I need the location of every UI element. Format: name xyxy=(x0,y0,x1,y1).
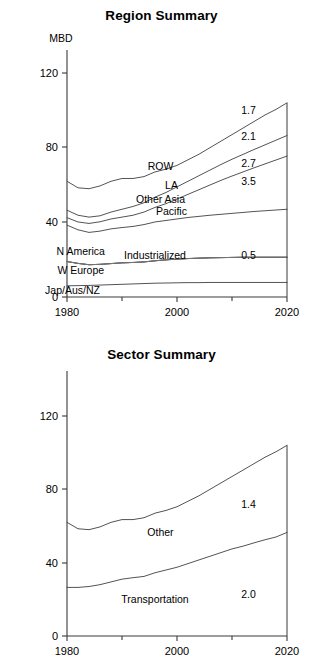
band-label-transportation: Transportation xyxy=(121,593,188,605)
figure-sector-summary: Sector Summary 04080120198020002020Other… xyxy=(0,340,323,667)
band-label-other: Other xyxy=(147,526,174,538)
y-tick-label: 40 xyxy=(46,557,58,569)
series-line-jap-aus-nz xyxy=(67,282,287,285)
x-tick-label: 1980 xyxy=(55,306,79,318)
band-label-la: LA xyxy=(165,179,178,191)
y-tick-label: 120 xyxy=(40,410,58,422)
growth-annotation: 3.5 xyxy=(241,175,256,187)
series-line-other xyxy=(67,445,287,529)
band-label-row: ROW xyxy=(148,160,174,172)
band-label-other-asia: Other Asia xyxy=(136,193,185,205)
x-tick-label: 2000 xyxy=(165,306,189,318)
y-tick-label: 0 xyxy=(52,630,58,642)
y-tick-label: 40 xyxy=(46,216,58,228)
y-tick-label: 80 xyxy=(46,483,58,495)
x-tick-label: 2020 xyxy=(275,645,299,657)
region-chart-plot: 04080120198020002020MBDROWLAOther AsiaPa… xyxy=(0,0,323,340)
growth-annotation: 1.7 xyxy=(241,104,256,116)
band-label-jap-aus-nz: Jap/Aus/NZ xyxy=(45,284,100,296)
band-label-industrialized: Industrialized xyxy=(124,249,186,261)
chart-page: Region Summary 04080120198020002020MBDRO… xyxy=(0,0,323,667)
growth-annotation: 2.7 xyxy=(241,157,256,169)
band-label-n-america: N America xyxy=(57,245,106,257)
x-tick-label: 2020 xyxy=(275,306,299,318)
y-tick-label: 120 xyxy=(40,67,58,79)
band-label-w-europe: W Europe xyxy=(57,264,104,276)
growth-annotation: 2.1 xyxy=(241,130,256,142)
x-tick-label: 1980 xyxy=(55,645,79,657)
growth-annotation: 0.5 xyxy=(241,249,256,261)
growth-annotation: 2.0 xyxy=(241,588,256,600)
y-tick-label: 80 xyxy=(46,141,58,153)
x-tick-label: 2000 xyxy=(165,645,189,657)
y-axis-unit-label: MBD xyxy=(49,32,73,44)
sector-chart-plot: 04080120198020002020OtherTransportation1… xyxy=(0,340,323,667)
series-line-transportation xyxy=(67,532,287,587)
band-label-pacific: Pacific xyxy=(156,205,187,217)
growth-annotation: 1.4 xyxy=(241,498,256,510)
figure-region-summary: Region Summary 04080120198020002020MBDRO… xyxy=(0,0,323,340)
